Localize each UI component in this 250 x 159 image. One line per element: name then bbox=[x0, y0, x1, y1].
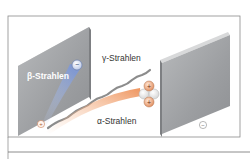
proton-bottom-symbol: + bbox=[147, 99, 151, 106]
electron-particle: − bbox=[72, 60, 82, 70]
plus-charge-marker: + bbox=[37, 120, 44, 127]
gamma-label: γ-Strahlen bbox=[102, 53, 141, 63]
beta-label: β-Strahlen bbox=[27, 71, 69, 81]
proton-top-symbol: + bbox=[147, 83, 151, 90]
electron-symbol: − bbox=[75, 61, 79, 68]
radiation-deflection-diagram: − + + + − β-Strahlen γ-Strahlen α-Strahl… bbox=[0, 0, 250, 159]
alpha-label: α-Strahlen bbox=[97, 116, 137, 126]
svg-text:+: + bbox=[39, 121, 43, 127]
minus-charge-marker: − bbox=[199, 121, 206, 128]
svg-text:−: − bbox=[201, 122, 205, 128]
